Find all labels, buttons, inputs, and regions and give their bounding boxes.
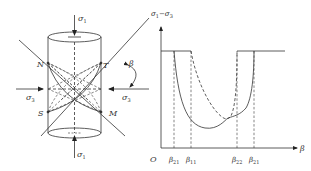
point-t-dot — [100, 62, 102, 64]
shear-line-nm — [19, 40, 125, 136]
point-s-dot — [47, 111, 49, 113]
tick-label-beta21-right: β21 — [248, 156, 259, 165]
tick-label-beta11: β11 — [185, 156, 196, 165]
x-axis-label: β — [299, 144, 305, 153]
point-n-dot — [47, 62, 49, 64]
specimen-figure — [16, 15, 149, 158]
label-point-t: T — [103, 61, 109, 70]
y-axis-label: σ1−σ3 — [151, 10, 173, 19]
label-sigma3-left: σ3 — [26, 93, 35, 103]
origin-label: O — [150, 155, 157, 164]
point-m-dot — [100, 111, 102, 113]
label-point-m: M — [108, 109, 118, 118]
diagram-canvas: σ1 σ1 σ3 σ3 N T S M β σ1−σ3 β O β21 β11 … — [0, 0, 311, 171]
tick-label-beta22: β22 — [231, 156, 242, 165]
label-point-s: S — [38, 109, 44, 118]
label-sigma1-bottom: σ1 — [77, 150, 86, 160]
label-beta: β — [128, 59, 134, 68]
dashed-strength-curve — [191, 51, 237, 119]
solid-strength-curve — [174, 51, 254, 128]
label-point-n: N — [36, 60, 45, 69]
strength-chart — [161, 27, 297, 148]
tick-label-beta21-left: β21 — [168, 156, 179, 165]
label-sigma3-right: σ3 — [122, 93, 131, 103]
label-sigma1-top: σ1 — [78, 14, 87, 24]
beta-angle-arc — [128, 65, 136, 87]
